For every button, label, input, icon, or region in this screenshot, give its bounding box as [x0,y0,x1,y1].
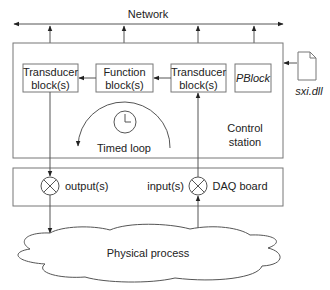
block-label: Transducer [171,66,227,78]
block-label: Function [103,66,145,78]
physical-process-label: Physical process [107,247,190,259]
block-pblock: PBlock [235,64,271,92]
file-label: sxi.dll [295,85,323,97]
block-label: PBlock [236,72,271,84]
control-station-label-line2: station [229,136,261,148]
block-label: block(s) [179,79,218,91]
input-label: input(s) [147,180,184,192]
block-label: block(s) [31,79,70,91]
block-transducer-in: Transducer block(s) [171,64,227,92]
control-architecture-diagram: Network Control station Transducer block… [0,0,330,290]
block-function: Function block(s) [96,64,153,92]
block-label: block(s) [105,79,144,91]
daq-board-label: DAQ board [212,180,267,192]
file-icon [298,52,316,80]
timed-loop-label: Timed loop [97,142,151,154]
block-label: Transducer [23,66,79,78]
network-label: Network [128,8,169,20]
output-label: output(s) [65,180,108,192]
control-station-label-line1: Control [227,122,262,134]
block-transducer-out: Transducer block(s) [23,64,79,92]
